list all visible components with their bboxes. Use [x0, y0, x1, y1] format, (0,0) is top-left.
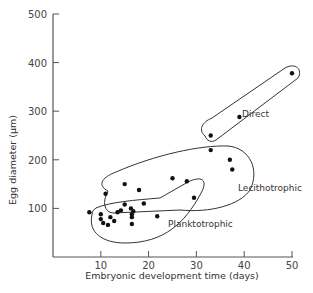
y-ticks: 100200300400500 — [28, 9, 59, 214]
y-tick-label: 100 — [28, 203, 47, 214]
y-axis-title: Egg diameter (μm) — [7, 115, 18, 205]
y-tick-label: 500 — [28, 9, 47, 20]
data-point-lecithotrophic — [123, 182, 127, 186]
x-tick-label: 50 — [286, 260, 299, 271]
label-planktotrophic: Planktotrophic — [168, 219, 233, 229]
direct-outline — [201, 66, 299, 142]
data-point-planktotrophic — [106, 223, 110, 227]
data-point-direct — [237, 115, 241, 119]
data-point-lecithotrophic — [192, 196, 196, 200]
data-point-planktotrophic — [101, 221, 105, 225]
data-point-planktotrophic — [131, 209, 135, 213]
data-point-direct — [290, 71, 294, 75]
data-point-direct — [209, 133, 213, 137]
data-point-lecithotrophic — [137, 188, 141, 192]
data-point-lecithotrophic — [103, 192, 107, 196]
label-direct: Direct — [242, 109, 269, 119]
data-point-planktotrophic — [142, 201, 146, 205]
scatter-chart: 100200300400500 1020304050 Direct Lecith… — [0, 0, 313, 293]
x-axis-title: Embryonic development time (days) — [85, 270, 259, 281]
y-tick-label: 200 — [28, 155, 47, 166]
x-ticks: 1020304050 — [94, 251, 298, 271]
data-point-lecithotrophic — [185, 179, 189, 183]
data-point-planktotrophic — [112, 219, 116, 223]
label-lecithotrophic: Lecithotrophic — [238, 183, 302, 193]
group-outlines — [91, 66, 299, 243]
data-point-planktotrophic — [108, 215, 112, 219]
data-point-planktotrophic — [130, 215, 134, 219]
data-point-planktotrophic — [123, 202, 127, 206]
data-point-lecithotrophic — [209, 148, 213, 152]
data-point-planktotrophic — [119, 208, 123, 212]
data-point-lecithotrophic — [228, 158, 232, 162]
y-tick-label: 300 — [28, 106, 47, 117]
data-point-planktotrophic — [130, 222, 134, 226]
data-point-planktotrophic — [99, 217, 103, 221]
data-point-planktotrophic — [155, 214, 159, 218]
y-tick-label: 400 — [28, 58, 47, 69]
data-point-lecithotrophic — [230, 167, 234, 171]
data-point-planktotrophic — [99, 212, 103, 216]
data-point-planktotrophic — [87, 210, 91, 214]
data-point-lecithotrophic — [170, 176, 174, 180]
